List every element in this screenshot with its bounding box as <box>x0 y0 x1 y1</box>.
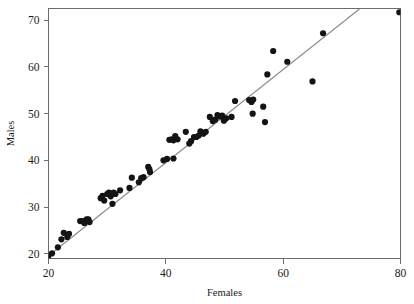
data-point <box>228 114 234 120</box>
data-point <box>126 185 132 191</box>
data-point <box>174 136 180 142</box>
data-point <box>260 104 266 110</box>
x-tick-label: 40 <box>160 267 172 279</box>
data-point <box>55 244 61 250</box>
data-point <box>86 219 92 225</box>
y-tick-label: 50 <box>28 108 40 120</box>
data-area <box>45 9 402 259</box>
x-tick-label: 60 <box>277 267 289 279</box>
x-tick-label: 20 <box>43 267 55 279</box>
scatter-plot-figure: 20406080Females203040506070Males <box>0 0 414 304</box>
data-point <box>183 129 189 135</box>
data-point <box>223 115 229 121</box>
data-point <box>264 71 270 77</box>
y-tick-label: 30 <box>28 201 40 213</box>
plot-canvas: 20406080Females203040506070Males <box>0 0 414 304</box>
data-point <box>109 201 115 207</box>
data-point <box>66 231 72 237</box>
data-point <box>396 9 402 15</box>
data-point <box>129 175 135 181</box>
y-tick-label: 40 <box>28 154 40 166</box>
data-point <box>250 97 256 103</box>
data-point <box>203 129 209 135</box>
data-point <box>147 169 153 175</box>
x-axis-title: Females <box>207 287 242 298</box>
data-point <box>164 156 170 162</box>
data-point <box>270 48 276 54</box>
y-tick-label: 20 <box>28 248 40 260</box>
scatter-series <box>45 9 402 259</box>
data-point <box>320 30 326 36</box>
data-point <box>58 236 64 242</box>
data-point <box>250 111 256 117</box>
x-tick-label: 80 <box>395 267 407 279</box>
y-axis-title: Males <box>5 121 16 147</box>
data-point <box>170 155 176 161</box>
data-point <box>309 78 315 84</box>
data-point <box>117 187 123 193</box>
y-tick-label: 70 <box>28 14 40 26</box>
y-axis: 203040506070Males <box>5 14 49 260</box>
data-point <box>101 197 107 203</box>
data-point <box>284 59 290 65</box>
y-tick-label: 60 <box>28 61 40 73</box>
data-point <box>262 119 268 125</box>
data-point <box>49 250 55 256</box>
x-axis: 20406080Females <box>43 259 407 298</box>
plot-frame <box>49 9 401 259</box>
data-point <box>232 98 238 104</box>
data-point <box>140 174 146 180</box>
